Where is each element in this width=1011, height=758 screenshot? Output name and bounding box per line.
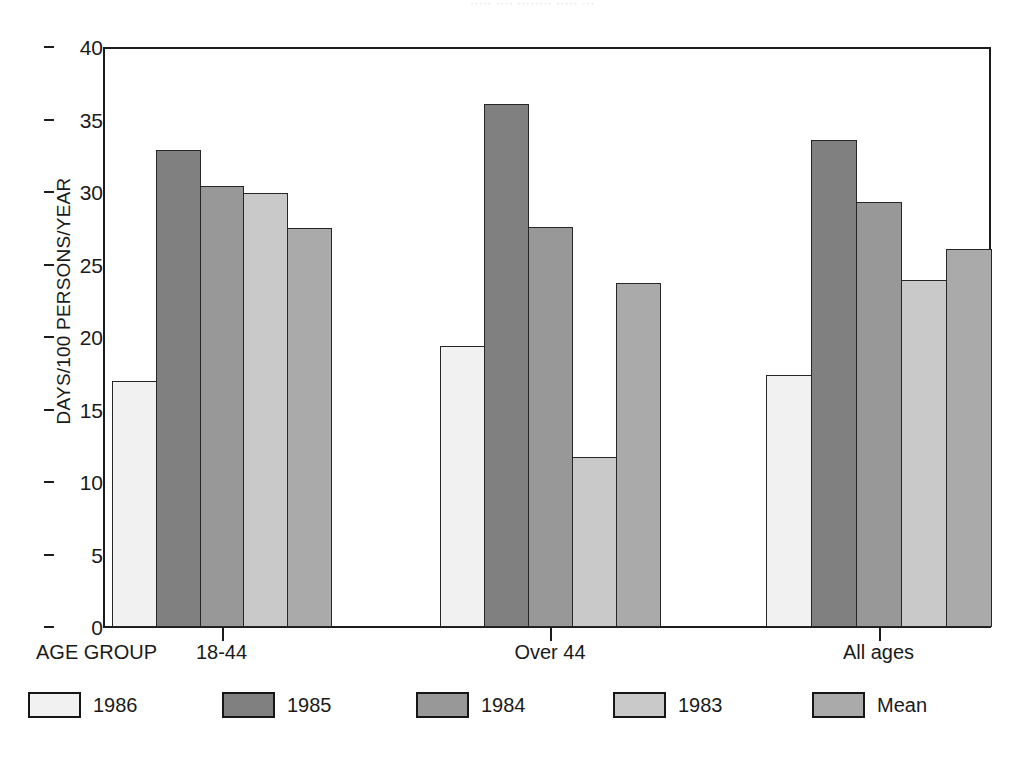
legend-item: 1986 [28, 692, 138, 718]
legend-item: Mean [812, 692, 927, 718]
bar [243, 193, 288, 627]
x-axis-group-label: Over 44 [514, 641, 585, 664]
legend-item: 1985 [222, 692, 332, 718]
legend-swatch [416, 692, 469, 718]
bar [528, 227, 573, 627]
bar [287, 228, 332, 627]
y-axis-tick-mark [44, 626, 54, 628]
y-axis-tick-mark [44, 46, 54, 48]
x-axis-group-tick [550, 628, 552, 641]
bar [766, 375, 812, 627]
y-axis-title: DAYS/100 PERSONS/YEAR [53, 91, 75, 511]
legend-swatch [222, 692, 275, 718]
bar [811, 140, 857, 627]
x-axis-group-label: 18-44 [196, 641, 247, 664]
bar [572, 457, 617, 627]
x-axis-group-label: All ages [843, 641, 914, 664]
bar [616, 283, 661, 627]
y-axis-tick-mark [44, 554, 54, 556]
legend: 1986198519841983Mean [0, 692, 1011, 732]
legend-label: 1984 [481, 695, 526, 715]
bar [856, 202, 902, 627]
y-axis-tick-label: 5 [57, 544, 103, 565]
bar [200, 186, 245, 627]
bar [484, 104, 529, 627]
bar [112, 381, 157, 628]
legend-swatch [812, 692, 865, 718]
bar-chart: 0510152025303540 DAYS/100 PERSONS/YEAR A… [0, 0, 1011, 758]
legend-label: 1986 [93, 695, 138, 715]
legend-swatch [28, 692, 81, 718]
bar [946, 249, 992, 627]
legend-item: 1983 [613, 692, 723, 718]
y-axis-tick-label: 0 [57, 617, 103, 638]
bar [440, 346, 485, 627]
legend-label: 1985 [287, 695, 332, 715]
legend-swatch [613, 692, 666, 718]
bar [156, 150, 201, 627]
legend-item: 1984 [416, 692, 526, 718]
x-axis-group-tick [879, 628, 881, 641]
legend-label: Mean [877, 695, 927, 715]
bar [901, 280, 947, 627]
y-axis-tick-label: 40 [57, 37, 103, 58]
x-axis-caption: AGE GROUP [36, 641, 157, 664]
legend-label: 1983 [678, 695, 723, 715]
x-axis-group-tick [222, 628, 224, 641]
